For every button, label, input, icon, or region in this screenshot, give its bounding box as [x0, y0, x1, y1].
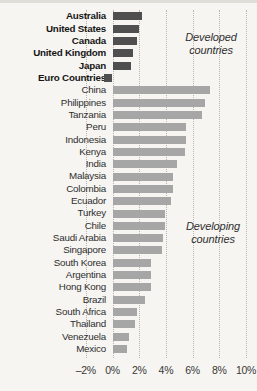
category-label: Malaysia — [0, 170, 106, 182]
bar — [113, 99, 205, 107]
category-label: India — [0, 158, 106, 170]
chart-row: Turkey — [0, 207, 257, 219]
chart-row: Euro Countries — [0, 72, 257, 84]
bar — [113, 308, 137, 316]
bar — [113, 62, 132, 70]
bar — [113, 296, 145, 304]
category-label: Saudi Arabia — [0, 232, 106, 244]
category-label: China — [0, 84, 106, 96]
bar — [113, 37, 137, 45]
category-label: South Africa — [0, 306, 106, 318]
chart-row: China — [0, 84, 257, 96]
category-label: Brazil — [0, 294, 106, 306]
category-label: Philippines — [0, 97, 106, 109]
chart-row: South Korea — [0, 257, 257, 269]
bar — [113, 259, 152, 267]
chart-row: Thailand — [0, 318, 257, 330]
bar — [113, 185, 173, 193]
chart-row: Philippines — [0, 97, 257, 109]
category-label: Chile — [0, 220, 106, 232]
bar — [113, 271, 152, 279]
bar — [113, 283, 152, 291]
bar — [113, 333, 129, 341]
category-label: Hong Kong — [0, 281, 106, 293]
bar — [113, 345, 128, 353]
bar — [113, 136, 186, 144]
category-label: Canada — [0, 35, 106, 47]
chart-row: Tanzania — [0, 109, 257, 121]
category-label: Thailand — [0, 318, 106, 330]
chart-row: Brazil — [0, 294, 257, 306]
bar — [113, 320, 136, 328]
category-label: South Korea — [0, 257, 106, 269]
bar — [113, 86, 210, 94]
chart-row: Singapore — [0, 244, 257, 256]
annotation-line: countries — [176, 44, 246, 57]
chart-row: Indonesia — [0, 134, 257, 146]
chart-row: Colombia — [0, 183, 257, 195]
category-label: Euro Countries — [0, 72, 106, 84]
category-label: Australia — [0, 10, 106, 22]
chart-row: Japan — [0, 60, 257, 72]
bar — [113, 246, 162, 254]
developing-countries-annotation: Developingcountries — [178, 220, 248, 245]
chart-row: Australia — [0, 10, 257, 22]
category-label: Japan — [0, 60, 106, 72]
category-label: United Kingdom — [0, 47, 106, 59]
category-label: Ecuador — [0, 195, 106, 207]
bar — [113, 197, 172, 205]
chart-row: Kenya — [0, 146, 257, 158]
bar — [113, 234, 164, 242]
scan-edge-artifact — [0, 0, 257, 3]
annotation-line: countries — [178, 233, 248, 246]
chart-row: Argentina — [0, 269, 257, 281]
category-label: Argentina — [0, 269, 106, 281]
chart-row: Venezuela — [0, 331, 257, 343]
chart-row: Mexico — [0, 343, 257, 355]
annotation-line: Developed — [176, 31, 246, 44]
bar — [113, 12, 142, 20]
bar — [113, 25, 140, 33]
category-label: Turkey — [0, 207, 106, 219]
bar — [113, 160, 177, 168]
category-label: Tanzania — [0, 109, 106, 121]
developed-countries-annotation: Developedcountries — [176, 31, 246, 56]
chart-row: Hong Kong — [0, 281, 257, 293]
bar — [113, 173, 173, 181]
annotation-line: Developing — [178, 220, 248, 233]
bar — [113, 210, 165, 218]
bar — [104, 74, 112, 82]
category-label: Singapore — [0, 244, 106, 256]
bar — [113, 148, 185, 156]
category-label: Mexico — [0, 343, 106, 355]
chart-row: Malaysia — [0, 170, 257, 182]
x-tick-label: 10% — [229, 364, 257, 376]
bar — [113, 49, 133, 57]
bar — [113, 222, 165, 230]
chart-row: India — [0, 158, 257, 170]
chart-row: Peru — [0, 121, 257, 133]
chart-row: South Africa — [0, 306, 257, 318]
category-label: Venezuela — [0, 331, 106, 343]
category-label: United States — [0, 23, 106, 35]
bar — [113, 111, 202, 119]
category-label: Indonesia — [0, 134, 106, 146]
category-label: Kenya — [0, 146, 106, 158]
category-label: Colombia — [0, 183, 106, 195]
bar-chart-figure: AustraliaUnited StatesCanadaUnited Kingd… — [0, 0, 257, 391]
category-label: Peru — [0, 121, 106, 133]
bar — [113, 123, 186, 131]
chart-row: Ecuador — [0, 195, 257, 207]
